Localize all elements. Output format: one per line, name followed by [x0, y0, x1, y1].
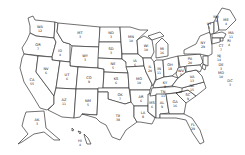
electoral-votes-label: 6	[45, 71, 47, 75]
electoral-votes-label: 11	[157, 71, 161, 75]
electoral-votes-label: 3	[110, 35, 112, 39]
state-ak[interactable]	[18, 111, 60, 144]
electoral-votes-label: 29	[201, 45, 205, 49]
electoral-votes-label: 4	[59, 53, 61, 57]
electoral-votes-label: 10	[144, 48, 148, 52]
electoral-votes-label: 11	[62, 102, 66, 106]
electoral-votes-label: 4	[225, 22, 227, 26]
electoral-votes-label: 29	[191, 127, 195, 131]
electoral-votes-label: 16	[160, 51, 164, 55]
electoral-votes-label: 3	[84, 58, 86, 62]
electoral-votes-label: 14	[217, 58, 221, 62]
electoral-votes-label: 7	[37, 47, 39, 51]
electoral-votes-label: 3	[229, 83, 231, 87]
electoral-votes-label: 8	[142, 115, 144, 119]
electoral-votes-label: 5	[112, 66, 114, 70]
state-ri[interactable]	[220, 38, 223, 41]
electoral-votes-label: 16	[173, 104, 177, 108]
electoral-votes-label: 3	[208, 26, 210, 30]
electoral-votes-label: 55	[30, 82, 34, 86]
electoral-votes-label: 6	[151, 105, 153, 109]
electoral-votes-label: 10	[129, 39, 133, 43]
electoral-votes-label: 8	[164, 85, 166, 89]
electoral-votes-label: 9	[161, 105, 163, 109]
us-map: WA12OR7CA55ID4NV6MT3WY3UT6CO9AZ11NM5ND3S…	[0, 0, 245, 155]
electoral-votes-label: 15	[190, 88, 194, 92]
electoral-votes-label: 12	[38, 29, 42, 33]
electoral-votes-label: 10	[137, 81, 141, 85]
electoral-votes-label: 18	[168, 67, 172, 71]
electoral-votes-label: 7	[119, 97, 121, 101]
electoral-votes-label: 3	[36, 122, 38, 126]
electoral-votes-label: 6	[134, 63, 136, 67]
electoral-votes-label: 9	[187, 97, 189, 101]
electoral-votes-label: 4	[79, 143, 81, 147]
electoral-votes-label: 6	[140, 99, 142, 103]
electoral-votes-label: 10	[219, 75, 223, 79]
electoral-votes-label: 38	[116, 118, 120, 122]
electoral-votes-label: 5	[87, 103, 89, 107]
electoral-votes-label: 3	[79, 35, 81, 39]
electoral-votes-label: 9	[88, 80, 90, 84]
states-layer	[18, 8, 236, 144]
state-ny[interactable]	[184, 32, 212, 56]
electoral-votes-label: 20	[148, 69, 152, 73]
electoral-votes-label: 20	[188, 61, 192, 65]
state-fl[interactable]	[160, 114, 204, 144]
electoral-votes-label: 6	[66, 77, 68, 81]
electoral-votes-label: 4	[215, 19, 217, 23]
electoral-votes-label: 7	[220, 48, 222, 52]
electoral-votes-label: 3	[110, 51, 112, 55]
electoral-votes-label: 11	[161, 94, 165, 98]
electoral-votes-label: 13	[190, 79, 194, 83]
electoral-votes-label: 4	[228, 43, 230, 47]
electoral-votes-label: 5	[180, 73, 182, 77]
electoral-votes-label: 6	[115, 81, 117, 85]
